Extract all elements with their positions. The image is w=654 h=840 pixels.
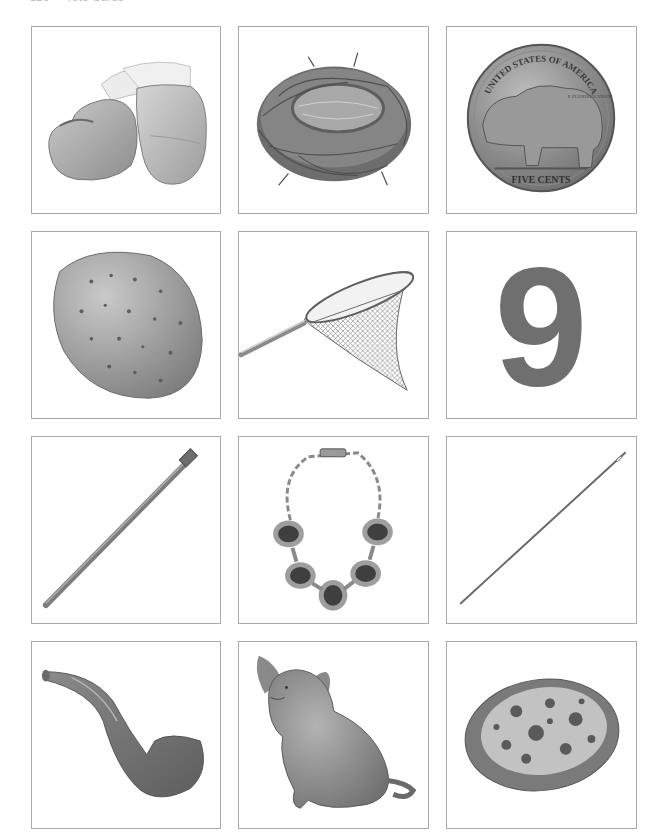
picture-card-needle: needle: [446, 436, 637, 624]
page-number: 120: [30, 0, 50, 3]
coin-bottom-text: FIVE CENTS: [512, 174, 571, 185]
numeral-nine: 9: [494, 233, 588, 418]
picture-card-net: net: [238, 231, 429, 419]
number-nine-icon: 9: [447, 232, 636, 418]
mittens-icon: [32, 27, 220, 213]
nail-icon: [32, 437, 220, 623]
picture-card-nine: nine 9: [446, 231, 637, 419]
fishing-net-icon: [239, 232, 428, 418]
picture-card-nail: nail: [31, 436, 221, 624]
pizza-icon: [447, 642, 636, 828]
picture-card-pizza: pizza: [446, 641, 637, 829]
needle-icon: [447, 437, 636, 623]
coin-motto: E PLURIBUS UNUM: [568, 94, 613, 99]
picture-card-necklace: necklace: [238, 436, 429, 624]
nickel-icon: UNITED STATES OF AMERICA E PLURIBUS UNUM…: [447, 27, 636, 213]
picture-card-mittens: mittens: [31, 26, 221, 214]
pig-icon: [239, 642, 428, 828]
picture-card-nut: nut: [31, 231, 221, 419]
picture-card-grid: mittens nest: [31, 26, 637, 829]
almond-icon: [32, 232, 220, 418]
picture-card-nest: nest: [238, 26, 429, 214]
picture-card-nickel: nickel UNITED STATES OF AMERICA E PLURIB…: [446, 26, 637, 214]
necklace-icon: [239, 437, 428, 623]
picture-card-pig: pig: [238, 641, 429, 829]
page-header: 120·Tote Cards: [30, 0, 124, 3]
page-title: Tote Cards: [66, 0, 124, 3]
picture-card-pipe: pipe: [31, 641, 221, 829]
nest-icon: [239, 27, 428, 213]
header-separator: ·: [56, 0, 60, 3]
pipe-icon: [32, 642, 220, 828]
